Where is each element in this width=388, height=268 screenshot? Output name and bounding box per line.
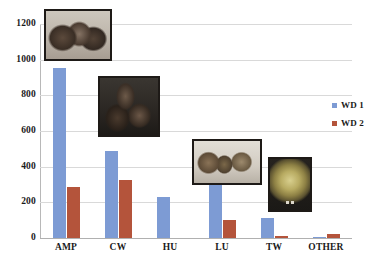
y-tick-label-1000: 1000: [2, 55, 36, 65]
jugs-photo: [98, 76, 160, 137]
y-tick-label-200: 200: [2, 197, 36, 207]
legend-swatch-wd-1: [332, 103, 337, 108]
sherds-photo: [192, 139, 262, 185]
y-tick-label-1200: 1200: [2, 19, 36, 29]
x-axis-category-labels: AMPCWHULUTWOTHER: [40, 241, 352, 261]
x-label-cw: CW: [88, 241, 148, 254]
bar-other-wd-1[interactable]: [313, 237, 326, 238]
legend-swatch-wd-2: [332, 121, 337, 126]
y-tick-label-400: 400: [2, 162, 36, 172]
bar-other-wd-2[interactable]: [327, 234, 340, 238]
glazed-dish-photo: [268, 157, 312, 212]
legend-label-wd-1: WD 1: [341, 100, 364, 110]
glazed-dish-photo-frame: [268, 157, 312, 212]
x-label-hu: HU: [140, 241, 200, 254]
x-label-amp: AMP: [36, 241, 96, 254]
y-tick-label-600: 600: [2, 126, 36, 136]
x-label-lu: LU: [192, 241, 252, 254]
x-label-other: OTHER: [296, 241, 356, 254]
amphorae-photo: [44, 9, 112, 61]
y-tick-label-0: 0: [2, 233, 36, 243]
amphorae-photo-frame: [44, 9, 112, 61]
y-tick-label-800: 800: [2, 90, 36, 100]
bar-chart: 020040060080010001200 AMPCWHULUTWOTHER W…: [0, 0, 388, 268]
sherds-photo-frame: [192, 139, 262, 185]
jugs-photo-frame: [98, 76, 160, 137]
legend-item-wd-1[interactable]: WD 1: [332, 98, 388, 112]
x-label-tw: TW: [244, 241, 304, 254]
legend-item-wd-2[interactable]: WD 2: [332, 116, 388, 130]
chart-legend: WD 1 WD 2: [332, 98, 388, 134]
y-axis-tick-labels: 020040060080010001200: [0, 0, 36, 268]
legend-label-wd-2: WD 2: [341, 118, 364, 128]
gridline-0: [40, 238, 352, 239]
